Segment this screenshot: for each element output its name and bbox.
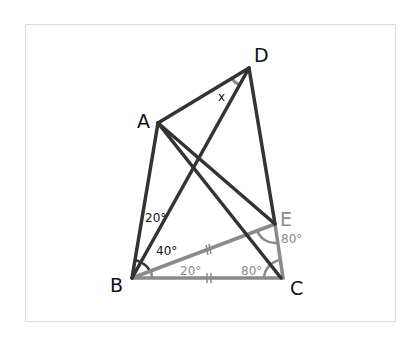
label-angle-DBE: 40°: [156, 244, 177, 258]
label-angle-BCE: 80°: [241, 264, 262, 278]
label-point-A: A: [137, 110, 150, 132]
label-point-B: B: [110, 274, 123, 296]
tick-BE-2: [209, 244, 211, 254]
label-point-E: E: [280, 208, 292, 230]
angle-arc-BEC: [257, 230, 277, 243]
segment-DE: [249, 68, 275, 224]
label-angle-x: x: [218, 90, 225, 104]
label-point-C: C: [290, 277, 303, 299]
label-angle-EBC: 20°: [180, 264, 201, 278]
tick-BE-1: [206, 245, 208, 255]
label-angle-BEC: 80°: [281, 232, 302, 246]
label-point-D: D: [254, 44, 269, 66]
label-angle-ABD: 20°: [145, 211, 166, 225]
segment-AE: [158, 123, 275, 224]
geometry-diagram: D A B C E x 20° 40° 20° 80° 80°: [0, 0, 419, 346]
